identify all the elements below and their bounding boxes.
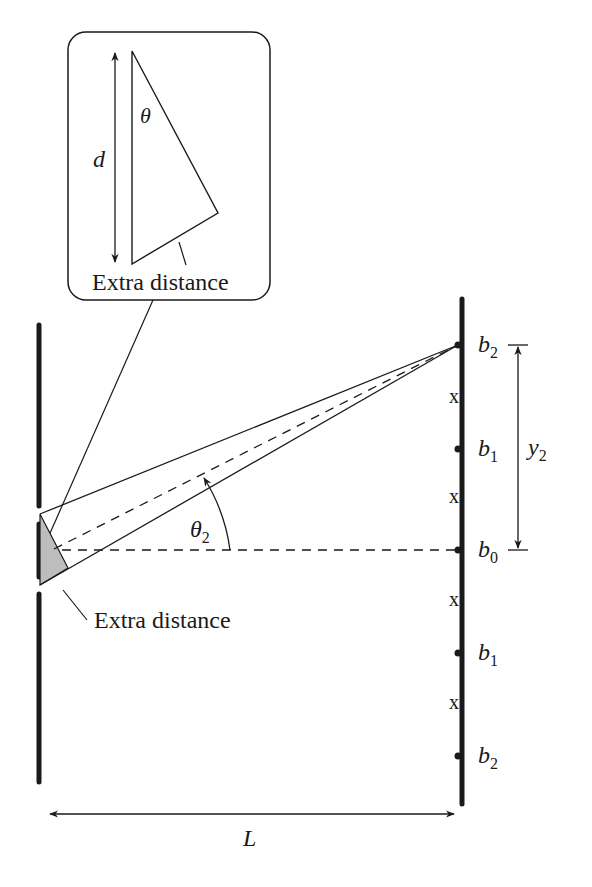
- label-b2-top: b2: [478, 331, 498, 361]
- rays: [40, 345, 458, 585]
- label-b1-upper: b1: [478, 435, 498, 465]
- fringe-dot-b2-top: [455, 342, 462, 349]
- diagram-canvas: Extra distance d θ θ2 Extra distance x x: [0, 0, 592, 887]
- upper-ray: [40, 345, 458, 514]
- label-b1-lower: b1: [478, 639, 498, 669]
- inset-extra-distance-label: Extra distance: [92, 269, 229, 295]
- minimum-mark: x: [449, 485, 459, 507]
- screen: x x x x b2 b1 b0 b1 b2: [449, 299, 498, 804]
- fringe-dot-b0: [455, 547, 462, 554]
- lower-ray: [40, 345, 458, 585]
- minimum-mark: x: [449, 385, 459, 407]
- label-b0: b0: [478, 536, 498, 566]
- theta2-label: θ2: [190, 516, 210, 546]
- minimum-mark: x: [449, 588, 459, 610]
- label-b2-bottom: b2: [478, 742, 498, 772]
- inset-zoom-box: Extra distance d θ: [68, 32, 270, 300]
- L-label: L: [242, 825, 256, 851]
- extra-distance-pointer: [63, 590, 87, 620]
- inset-connector-line: [47, 300, 153, 540]
- fringe-dot-b1-upper: [455, 446, 462, 453]
- y2-label: y2: [526, 434, 547, 464]
- fringe-dot-b2-bottom: [455, 753, 462, 760]
- d-label: d: [93, 146, 106, 172]
- L-dimension: L: [50, 814, 454, 851]
- y2-dimension: y2: [508, 345, 547, 550]
- center-ray-dashed: [54, 345, 458, 549]
- extra-distance-label: Extra distance: [94, 607, 231, 633]
- fringe-dot-b1-lower: [455, 650, 462, 657]
- minimum-mark: x: [449, 691, 459, 713]
- theta-label: θ: [140, 103, 151, 128]
